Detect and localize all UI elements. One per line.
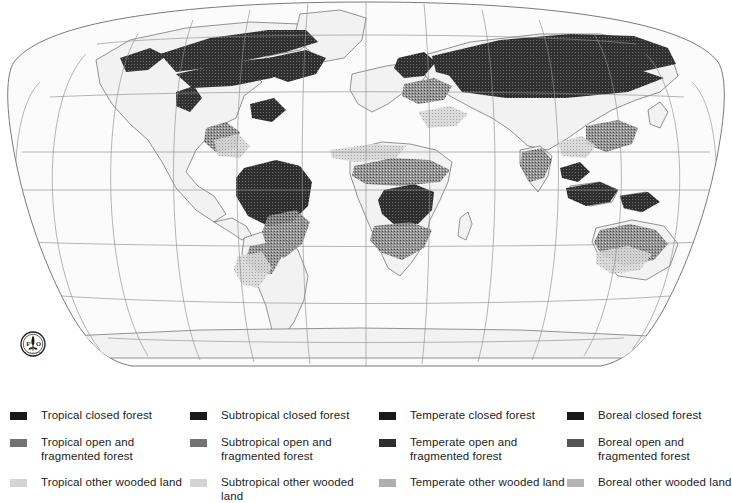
- legend-item-temperate-open-fragmented-forest[interactable]: Temperate open and fragmented forest: [379, 436, 565, 463]
- map-legend: Tropical closed forest Tropical open and…: [0, 398, 732, 482]
- fao-logo-letter-a: A: [30, 339, 34, 345]
- legend-item-tropical-closed-forest[interactable]: Tropical closed forest: [10, 409, 196, 430]
- legend-column-boreal: Boreal closed forest Boreal open and fra…: [567, 398, 732, 470]
- legend-label: Subtropical other wooded land: [221, 476, 376, 503]
- swatch-subtropical-other-wooded-land: [190, 479, 207, 487]
- legend-item-tropical-other-wooded-land[interactable]: Tropical other wooded land: [10, 476, 196, 497]
- legend-label: Temperate open and fragmented forest: [410, 436, 565, 463]
- fao-logo-letter-f: F: [26, 340, 30, 347]
- legend-column-subtropical: Subtropical closed forest Subtropical op…: [190, 398, 376, 476]
- legend-label: Temperate other wooded land: [410, 476, 565, 490]
- fao-logo: F A O FIAT PANIS: [20, 331, 46, 357]
- swatch-tropical-closed-forest: [10, 412, 27, 420]
- swatch-temperate-closed-forest: [379, 412, 396, 420]
- legend-label: Temperate closed forest: [410, 409, 565, 423]
- legend-item-subtropical-closed-forest[interactable]: Subtropical closed forest: [190, 409, 376, 430]
- legend-item-subtropical-other-wooded-land[interactable]: Subtropical other wooded land: [190, 476, 376, 503]
- legend-label: Boreal open and fragmented forest: [598, 436, 732, 463]
- legend-label: Tropical other wooded land: [41, 476, 196, 490]
- swatch-boreal-open-fragmented-forest: [567, 439, 584, 447]
- legend-label: Tropical open and fragmented forest: [41, 436, 196, 463]
- legend-item-temperate-closed-forest[interactable]: Temperate closed forest: [379, 409, 565, 430]
- swatch-boreal-other-wooded-land: [567, 479, 584, 487]
- legend-label: Boreal closed forest: [598, 409, 732, 423]
- legend-item-boreal-closed-forest[interactable]: Boreal closed forest: [567, 409, 732, 430]
- world-map-canvas: [0, 0, 732, 378]
- swatch-temperate-other-wooded-land: [379, 479, 396, 487]
- swatch-tropical-other-wooded-land: [10, 479, 27, 487]
- fao-logo-letter-o: O: [36, 340, 41, 347]
- legend-item-temperate-other-wooded-land[interactable]: Temperate other wooded land: [379, 476, 565, 497]
- swatch-tropical-open-fragmented-forest: [10, 439, 27, 447]
- swatch-subtropical-open-fragmented-forest: [190, 439, 207, 447]
- legend-item-boreal-other-wooded-land[interactable]: Boreal other wooded land: [567, 476, 732, 497]
- legend-label: Tropical closed forest: [41, 409, 196, 423]
- legend-column-tropical: Tropical closed forest Tropical open and…: [10, 398, 196, 470]
- swatch-temperate-open-fragmented-forest: [379, 439, 396, 447]
- legend-label: Subtropical closed forest: [221, 409, 376, 423]
- legend-label: Boreal other wooded land: [598, 476, 732, 490]
- swatch-boreal-closed-forest: [567, 412, 584, 420]
- swatch-subtropical-closed-forest: [190, 412, 207, 420]
- legend-item-boreal-open-fragmented-forest[interactable]: Boreal open and fragmented forest: [567, 436, 732, 463]
- fao-logo-motto: FIAT PANIS: [25, 351, 41, 354]
- legend-item-tropical-open-fragmented-forest[interactable]: Tropical open and fragmented forest: [10, 436, 196, 463]
- world-map-figure: F A O FIAT PANIS: [0, 0, 732, 378]
- legend-label: Subtropical open and fragmented forest: [221, 436, 376, 463]
- legend-column-temperate: Temperate closed forest Temperate open a…: [379, 398, 565, 470]
- legend-item-subtropical-open-fragmented-forest[interactable]: Subtropical open and fragmented forest: [190, 436, 376, 463]
